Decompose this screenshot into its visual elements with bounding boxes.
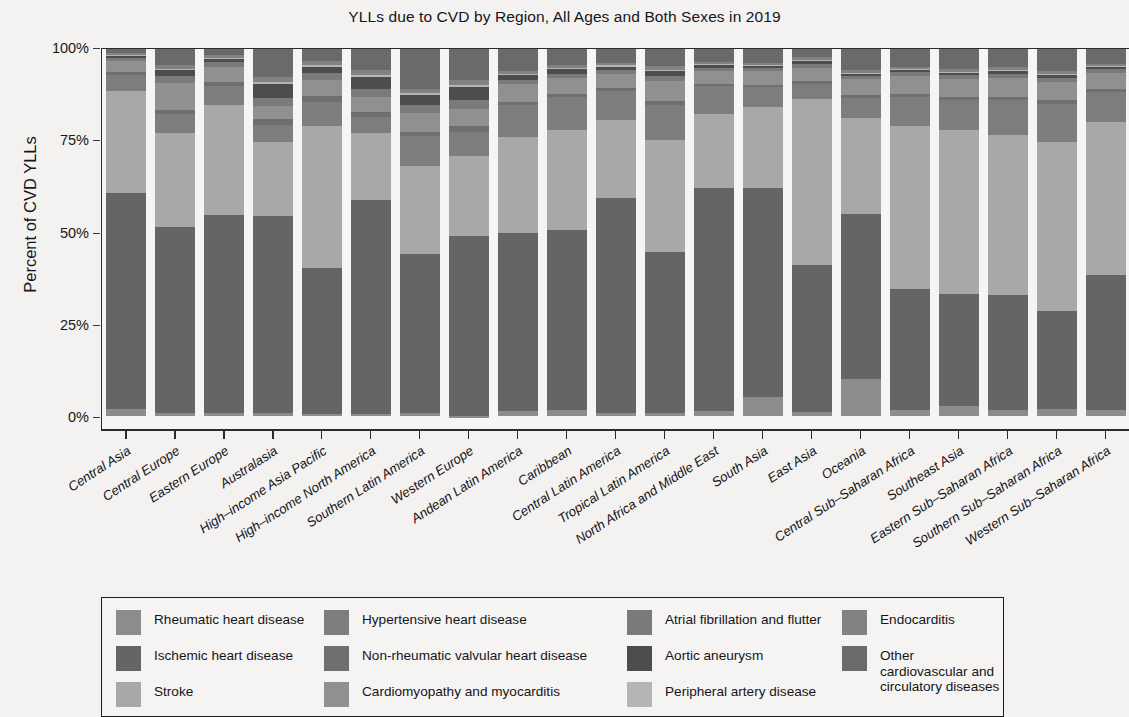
bar-segment (547, 130, 587, 230)
bar-segment (694, 48, 734, 62)
legend-label: Ischemic heart disease (154, 644, 293, 664)
bar-segment (743, 107, 783, 188)
stacked-bar[interactable] (1086, 48, 1126, 416)
bar-segment (645, 140, 685, 253)
legend-label: Non-rheumatic valvular heart disease (362, 644, 587, 664)
bar-segment (792, 99, 832, 265)
stacked-bar[interactable] (988, 48, 1028, 416)
stacked-bar[interactable] (449, 48, 489, 416)
bar-segment (351, 414, 391, 416)
legend-item[interactable]: Peripheral artery disease (627, 680, 821, 714)
bar-segment (988, 135, 1028, 296)
bar-segment (351, 77, 391, 89)
bar-segment (841, 379, 881, 416)
bar-segment (547, 97, 587, 130)
legend-item[interactable]: Rheumatic heart disease (116, 608, 304, 642)
legend-item[interactable]: Atrial fibrillation and flutter (627, 608, 821, 642)
bar-segment (204, 86, 244, 104)
stacked-bar[interactable] (694, 48, 734, 416)
bar-segment (351, 48, 391, 70)
bar-segment (596, 48, 636, 63)
stacked-bar[interactable] (841, 48, 881, 416)
bar-segment (694, 114, 734, 188)
stacked-bar[interactable] (939, 48, 979, 416)
legend-swatch-icon (842, 610, 867, 635)
bar-segment (792, 412, 832, 416)
bar-segment (253, 216, 293, 413)
stacked-bar[interactable] (792, 48, 832, 416)
legend-label: Atrial fibrillation and flutter (665, 608, 821, 628)
bar-segment (498, 233, 538, 412)
bar-segment (743, 87, 783, 107)
bar-segment (302, 414, 342, 416)
stacked-bar[interactable] (645, 48, 685, 416)
bar-segment (890, 410, 930, 416)
bar-segment (988, 295, 1028, 410)
bar-segment (449, 48, 489, 80)
stacked-bars (102, 49, 1129, 429)
stacked-bar[interactable] (547, 48, 587, 416)
legend-label: Other cardiovascular and circulatory dis… (880, 644, 1003, 695)
legend-swatch-icon (116, 610, 141, 635)
stacked-bar[interactable] (204, 48, 244, 416)
stacked-bar[interactable] (498, 48, 538, 416)
legend-swatch-icon (324, 610, 349, 635)
bar-segment (155, 83, 195, 110)
bar-segment (449, 132, 489, 156)
stacked-bar[interactable] (400, 48, 440, 416)
legend-item[interactable]: Other cardiovascular and circulatory dis… (842, 644, 1003, 678)
bar-segment (449, 416, 489, 418)
bar-segment (204, 48, 244, 55)
bar-segment (106, 409, 146, 416)
legend-column: Atrial fibrillation and flutterAortic an… (627, 608, 821, 716)
stacked-bar[interactable] (743, 48, 783, 416)
legend-item[interactable]: Non-rheumatic valvular heart disease (324, 644, 587, 678)
legend-item[interactable]: Stroke (116, 680, 304, 714)
legend-item[interactable]: Ischemic heart disease (116, 644, 304, 678)
bar-segment (106, 91, 146, 192)
bar-segment (939, 294, 979, 407)
x-tick-mark (174, 430, 175, 439)
bar-segment (204, 105, 244, 216)
bar-segment (204, 413, 244, 416)
stacked-bar[interactable] (890, 48, 930, 416)
legend-item[interactable]: Cardiomyopathy and myocarditis (324, 680, 587, 714)
x-tick-mark (223, 430, 224, 439)
bar-segment (841, 118, 881, 214)
bar-segment (890, 48, 930, 67)
bar-segment (400, 136, 440, 166)
stacked-bar[interactable] (253, 48, 293, 416)
x-tick-mark (615, 430, 616, 439)
stacked-bar[interactable] (302, 48, 342, 416)
bar-segment (645, 413, 685, 416)
stacked-bar[interactable] (106, 48, 146, 416)
bar-segment (890, 76, 930, 94)
x-tick-mark (566, 430, 567, 439)
stacked-bar[interactable] (1037, 48, 1077, 416)
legend-column: EndocarditisOther cardiovascular and cir… (842, 608, 1003, 680)
legend-label: Rheumatic heart disease (154, 608, 304, 628)
plot-area (101, 48, 1129, 430)
bar-segment (400, 105, 440, 112)
legend-column: Rheumatic heart diseaseIschemic heart di… (116, 608, 304, 716)
stacked-bar[interactable] (596, 48, 636, 416)
bar-segment (841, 79, 881, 95)
bar-segment (400, 413, 440, 416)
bar-segment (449, 87, 489, 100)
bar-segment (694, 411, 734, 416)
stacked-bar[interactable] (155, 48, 195, 416)
legend-item[interactable]: Aortic aneurysm (627, 644, 821, 678)
y-tick-mark (93, 417, 100, 418)
legend-item[interactable]: Hypertensive heart disease (324, 608, 587, 642)
legend-item[interactable]: Endocarditis (842, 608, 1003, 642)
bar-segment (743, 397, 783, 416)
bar-segment (890, 97, 930, 127)
bar-segment (351, 133, 391, 199)
stacked-bar[interactable] (351, 48, 391, 416)
legend-label: Stroke (154, 680, 193, 700)
legend-swatch-icon (116, 682, 141, 707)
y-axis-title: Percent of CVD YLLs (21, 35, 40, 395)
bar-segment (988, 100, 1028, 135)
bar-segment (547, 230, 587, 410)
y-tick-label: 0% (27, 409, 89, 425)
